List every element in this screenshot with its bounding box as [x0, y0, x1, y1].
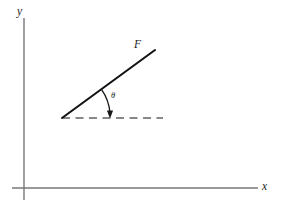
force-angle-diagram: y x F θ	[0, 0, 281, 208]
force-vector-line	[62, 50, 155, 118]
x-axis-label: x	[261, 180, 268, 192]
y-axis-label: y	[16, 5, 23, 18]
diagram-canvas: y x F θ	[0, 0, 281, 208]
angle-label: θ	[111, 90, 115, 100]
force-vector-label: F	[133, 38, 142, 50]
angle-arc	[102, 89, 111, 113]
